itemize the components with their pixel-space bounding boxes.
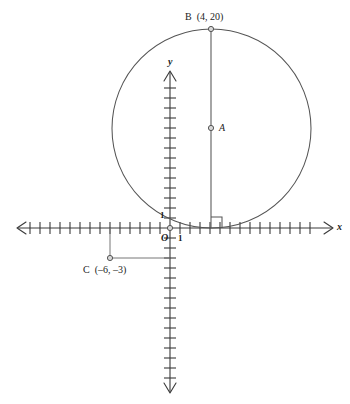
point-marker-b[interactable]: [208, 26, 213, 31]
point-label-c: C (–6, –3): [83, 265, 126, 275]
geometry-figure: B (4, 20) A C (–6, –3) O x y 1 1: [0, 0, 350, 404]
point-marker-origin[interactable]: [167, 225, 172, 230]
point-label-c-coords: (–6, –3): [95, 264, 127, 275]
point-label-b-coords: (4, 20): [197, 11, 224, 22]
x-axis-unit-label: 1: [178, 234, 183, 243]
origin-label: O: [161, 233, 168, 243]
y-axis-unit-label: 1: [160, 211, 165, 220]
point-label-a: A: [219, 123, 225, 133]
y-axis-label: y: [168, 57, 172, 67]
point-marker-a[interactable]: [208, 125, 213, 130]
point-label-c-name: C: [83, 264, 90, 275]
point-label-b-name: B: [185, 11, 192, 22]
x-axis-group: [17, 222, 333, 234]
point-marker-c[interactable]: [107, 255, 112, 260]
diagram-canvas: [0, 0, 350, 404]
point-label-b: B (4, 20): [185, 12, 223, 22]
x-axis-label: x: [337, 222, 342, 232]
